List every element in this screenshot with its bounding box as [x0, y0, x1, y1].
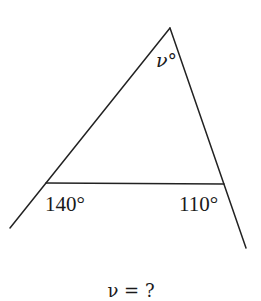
left-side-line [10, 28, 170, 228]
right-angle-label: 110° [179, 192, 218, 216]
base-line [46, 183, 224, 184]
question-text: ν = ? [107, 280, 154, 301]
apex-angle-label: ν° [156, 49, 177, 71]
left-angle-label: 140° [45, 192, 85, 216]
triangle-diagram: ν° 140° 110° ν = ? [0, 0, 261, 301]
